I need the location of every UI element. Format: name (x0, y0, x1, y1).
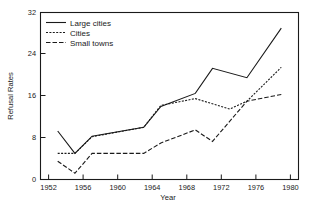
x-tick-label-1972: 1972 (213, 183, 229, 192)
y-tick-label-0: 0 (32, 175, 36, 184)
x-tick-label-1980: 1980 (282, 183, 298, 192)
refusal-rates-line-chart: 0 8 16 24 32 1952 1956 1960 1964 1968 19… (0, 0, 318, 212)
page-caption-fragment (0, 201, 318, 212)
x-tick-label-1964: 1964 (144, 183, 160, 192)
chart-background (0, 0, 318, 212)
y-tick-label-16: 16 (28, 91, 36, 100)
y-axis-title: Refusal Rates (6, 72, 15, 120)
legend-label-cities: Cities (70, 29, 90, 38)
x-tick-label-1968: 1968 (179, 183, 195, 192)
legend-label-small-towns: Small towns (70, 39, 113, 48)
y-tick-label-24: 24 (28, 49, 36, 58)
y-tick-label-8: 8 (32, 133, 36, 142)
x-tick-label-1976: 1976 (248, 183, 264, 192)
legend-label-large-cities: Large cities (70, 19, 111, 28)
x-tick-label-1956: 1956 (75, 183, 91, 192)
y-tick-label-32: 32 (28, 8, 36, 17)
x-tick-label-1960: 1960 (109, 183, 125, 192)
x-tick-label-1952: 1952 (40, 183, 56, 192)
